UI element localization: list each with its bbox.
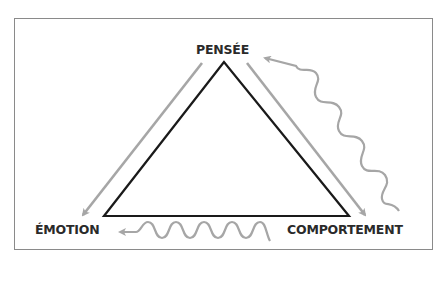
arrow-pensee-to-emotion bbox=[83, 63, 202, 215]
wavy-arrow-comportement-to-pensee bbox=[265, 58, 399, 211]
node-label-emotion: ÉMOTION bbox=[35, 222, 99, 237]
node-label-comportement: COMPORTEMENT bbox=[287, 222, 403, 237]
node-label-pensee: PENSÉE bbox=[196, 42, 249, 57]
wavy-arrow-comportement-to-emotion bbox=[120, 222, 270, 241]
triangle-shape bbox=[104, 62, 349, 216]
arrow-pensee-to-comportement bbox=[247, 63, 365, 215]
